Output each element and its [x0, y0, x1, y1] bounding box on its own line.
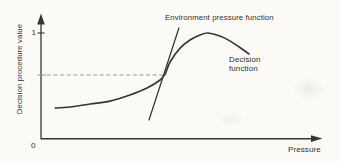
- environment-pressure-line: [149, 28, 179, 120]
- y-tick-1-label: 1: [26, 28, 36, 37]
- plot-canvas: [0, 0, 340, 161]
- decision-function-curve: [55, 33, 249, 108]
- x-axis-title: Pressure: [288, 145, 321, 154]
- y-axis-arrow-icon: [37, 14, 45, 25]
- axes: [37, 14, 322, 143]
- pressure-decision-figure: Environment pressure function Decision f…: [0, 0, 340, 161]
- x-axis-arrow-icon: [311, 135, 323, 142]
- origin-label: 0: [31, 141, 36, 150]
- decision-function-label: Decision function: [229, 55, 275, 73]
- environment-function-label: Environment pressure function: [165, 13, 274, 22]
- y-axis-title: Decision procedure value: [15, 17, 25, 121]
